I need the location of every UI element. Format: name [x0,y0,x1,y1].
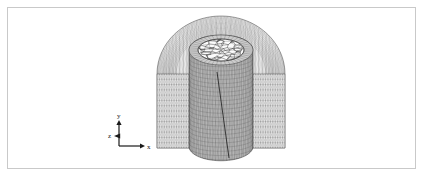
mesh-svg: x y z [0,0,424,177]
figure-root: x y z [0,0,424,177]
x-axis-arrowhead [140,143,145,148]
mesh-canvas: x y z [0,0,424,177]
x-axis-label: x [147,143,151,151]
y-axis-label: y [117,112,121,120]
coordinate-triad: x y z [108,112,151,151]
y-axis-arrowhead [116,120,121,125]
cylinder-top-cap [198,39,244,61]
z-axis-label: z [108,132,111,140]
z-axis-arrowhead [114,134,120,139]
